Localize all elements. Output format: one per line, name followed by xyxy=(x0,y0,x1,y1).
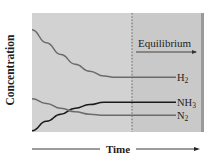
concentration-time-chart: Equilibrium H2NH3N2 Time xyxy=(0,0,214,161)
equilibrium-region xyxy=(132,13,201,132)
time-arrowhead-icon xyxy=(194,147,200,151)
x-axis-label: Time xyxy=(106,143,130,155)
plot-edge-shadow xyxy=(201,13,204,132)
equilibrium-label: Equilibrium xyxy=(138,37,192,49)
plot-area xyxy=(32,13,132,132)
